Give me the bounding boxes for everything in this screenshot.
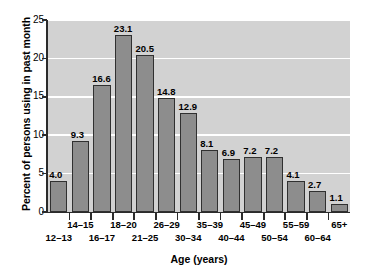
x-category-label: 60–64 [304,232,330,243]
bar-value-label: 6.9 [222,147,235,158]
y-tick-mark-20 [42,58,47,60]
x-category-label: 55–59 [283,219,309,230]
x-category-label: 45–49 [240,219,266,230]
bar-value-label: 7.2 [243,145,256,156]
bar-value-label: 14.8 [157,86,176,97]
y-tick-label-25: 25 [20,14,44,25]
bar-value-label: 9.3 [71,129,84,140]
bar [93,85,110,212]
bar [331,204,348,212]
y-tick-label-20: 20 [20,52,44,63]
x-axis-title: Age (years) [48,253,350,265]
x-category-label: 26–29 [153,219,179,230]
y-tick-mark-0 [42,211,47,213]
bar-value-label: 4.1 [286,169,299,180]
x-category-label: 50–54 [261,232,287,243]
bar [136,55,153,212]
bar-value-label: 20.5 [135,43,154,54]
y-tick-mark-25 [42,19,47,21]
y-tick-label-5: 5 [20,167,44,178]
x-category-label: 30–34 [175,232,201,243]
bar [244,157,261,212]
x-category-label: 21–25 [132,232,158,243]
bar [115,35,132,212]
y-tick-label-15: 15 [20,90,44,101]
bar-chart-figure: Percent of persons using in past month 0… [0,0,366,280]
bar-value-label: 2.7 [308,179,321,190]
bar [309,191,326,212]
bar [158,98,175,212]
x-category-label: 18–20 [110,219,136,230]
bar-value-label: 8.1 [200,138,213,149]
bar-value-label: 16.6 [92,73,111,84]
bars-group [48,20,350,212]
x-category-label: 35–39 [197,219,223,230]
y-tick-mark-15 [42,96,47,98]
x-category-label: 14–15 [67,219,93,230]
x-category-label: 16–17 [89,232,115,243]
bar [287,181,304,212]
x-category-label: 40–44 [218,232,244,243]
plot-area [48,20,350,212]
y-axis-title: Percent of persons using in past month [20,14,32,214]
x-tick-separator [328,213,330,220]
y-tick-mark-10 [42,134,47,136]
bar-value-label: 1.1 [330,192,343,203]
bar [180,113,197,212]
bar-value-label: 4.0 [49,169,62,180]
bar-value-label: 12.9 [179,101,198,112]
y-tick-mark-5 [42,173,47,175]
x-category-label: 65+ [331,219,347,230]
y-tick-label-0: 0 [20,206,44,217]
bar-value-label: 23.1 [114,23,133,34]
x-category-label: 12–13 [46,232,72,243]
bar-value-label: 7.2 [265,145,278,156]
bar [266,157,283,212]
bar [223,159,240,212]
bar [50,181,67,212]
bar [201,150,218,212]
bar [72,141,89,212]
y-tick-label-10: 10 [20,129,44,140]
